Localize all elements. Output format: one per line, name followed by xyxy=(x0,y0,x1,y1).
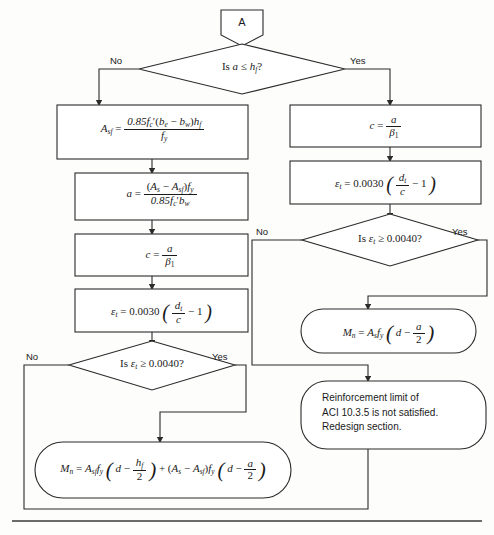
redesign-line-3: Redesign section. xyxy=(322,420,478,435)
oval-redesign-text: Reinforcement limit of ACI 10.3.5 is not… xyxy=(322,391,478,435)
decision1-no-path xyxy=(99,69,139,104)
decision3-yes-label: Yes xyxy=(452,226,468,237)
redesign-line-1: Reinforcement limit of xyxy=(322,391,478,406)
decision2-label: Is εt ≥ 0.0040? xyxy=(92,358,212,371)
box-asf-formula: Asf = 0.85fc′(be − bw)hf fy xyxy=(57,116,248,143)
decision1-yes-path xyxy=(345,69,390,104)
decision1-label: Is a ≤ hf? xyxy=(182,61,302,74)
decision3-label: Is εt ≥ 0.0040? xyxy=(330,233,450,246)
box-c-left-formula: c = a β1 xyxy=(75,243,248,268)
connector-a-label: A xyxy=(221,17,263,29)
flowchart-canvas: A Is a ≤ hf? No Yes Asf = 0.85fc′(be − b… xyxy=(0,0,494,535)
oval-mn-right-formula: Mn = Asfy ( d − a2 ) xyxy=(301,321,476,345)
decision1-yes-label: Yes xyxy=(350,55,366,66)
redesign-line-2: ACI 10.3.5 is not satisfied. xyxy=(322,406,478,421)
box-c-right-formula: c = a β1 xyxy=(290,114,481,139)
decision2-no-label: No xyxy=(26,351,38,362)
decision2-yes-label: Yes xyxy=(212,351,228,362)
decision1-no-label: No xyxy=(110,55,122,66)
box-et-right-formula: εt = 0.0030 ( dt c − 1 ) xyxy=(290,172,481,197)
decision3-no-label: No xyxy=(256,226,268,237)
box-et-left-formula: εt = 0.0030 ( dt c − 1 ) xyxy=(75,300,248,325)
box-a-formula: a = (As − Asf)fy 0.85fc′bw xyxy=(75,181,248,208)
oval-mn-left-formula: Mn = Asffy ( d − hf2 ) + (As − Asf)fy ( … xyxy=(35,457,291,482)
